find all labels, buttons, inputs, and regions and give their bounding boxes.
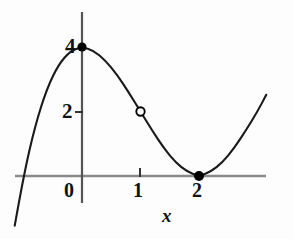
x-tick-label-2: 2	[192, 180, 202, 200]
x-tick-label-0: 0	[64, 180, 74, 200]
y-tick-label-2: 2	[62, 101, 73, 122]
removable-discontinuity-point-marker	[136, 107, 144, 115]
y-tick-label-4: 4	[65, 36, 76, 57]
x-axis-title: x	[162, 206, 172, 225]
plot-canvas	[0, 0, 293, 239]
maximum-point-marker	[77, 42, 86, 51]
x-tick-label-1: 1	[133, 180, 143, 200]
cubic-graph-figure: 4 2 0 1 2 x	[0, 0, 293, 239]
